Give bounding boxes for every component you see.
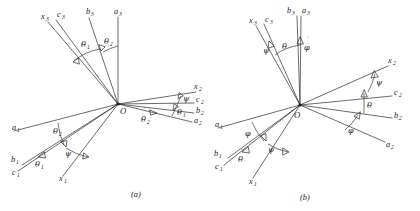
label-theta2-upper-a: θ xyxy=(104,36,109,46)
label-c2-a: c xyxy=(196,95,200,104)
label-c1-sub-b: 1 xyxy=(220,166,223,172)
label-x1-sub-b: 1 xyxy=(254,181,257,187)
label-c1-sub-a: 1 xyxy=(17,172,20,178)
axis-ray-c3-b xyxy=(264,24,300,105)
axis-ray-b1-b xyxy=(228,105,300,158)
label-c2-sub-a: 2 xyxy=(201,99,204,105)
label-a1-sub-a: 1 xyxy=(17,127,20,133)
caption-a: (a) xyxy=(131,190,141,199)
label-x2-sub-a: 2 xyxy=(199,86,202,92)
label-b2-sub-b: 2 xyxy=(399,115,402,121)
axis-ray-x3-b xyxy=(256,26,300,105)
label-x3-sub-b: 3 xyxy=(253,20,257,26)
label-x1-sub-a: 1 xyxy=(64,178,67,184)
label-a1-sub-b: 1 xyxy=(220,124,223,130)
label-theta2dot-right-a: θ xyxy=(141,114,146,124)
origin-dot-b xyxy=(298,103,301,106)
label-a2-sub-b: 2 xyxy=(391,144,394,150)
label-a3-sub-b: 3 xyxy=(306,10,310,16)
label-b2-b: b xyxy=(394,111,398,120)
axis-ray-c2-b xyxy=(300,96,392,105)
label-theta1-upper-a: θ xyxy=(81,39,86,49)
axis-ray-b2-b xyxy=(300,105,392,118)
label-x3-b: x xyxy=(248,16,253,25)
label-b1-a: b xyxy=(11,155,15,164)
axis-ray-a3-b xyxy=(300,16,301,105)
label-theta-upper-b: θ xyxy=(282,41,287,51)
label-b3-sub-b: 3 xyxy=(291,10,295,16)
label-psi-left-b: ψ xyxy=(268,144,275,154)
label-b1-b: b xyxy=(214,149,218,158)
label-x2-b: x xyxy=(387,56,392,65)
label-a2-sub-a: 2 xyxy=(199,120,202,126)
label-c2-b: c xyxy=(394,88,398,97)
arc-theta-upper-b xyxy=(275,45,300,55)
label-a3-sub-a: 3 xyxy=(118,11,122,17)
label-psi-right-a: ψ xyxy=(183,93,190,103)
euler-angle-diagram: x 3 c 3 b 3 a 3 x 2 c 2 b 2 a 2 a 1 b 1 … xyxy=(0,0,420,211)
axis-ray-c3-a xyxy=(56,20,118,104)
dot-theta1dot-left-a: ˙ xyxy=(37,153,41,161)
label-origin-b: O xyxy=(294,110,300,120)
label-psi-left-a: ψ xyxy=(65,148,72,158)
label-theta1-right-a: θ xyxy=(177,107,182,117)
dot-theta2dot-right-a: ˙ xyxy=(143,107,147,115)
axis-ray-b3-a xyxy=(89,18,118,104)
label-a1-b: a xyxy=(215,120,219,129)
dot-thetadot-left-b: ˙ xyxy=(240,148,244,156)
label-b3-b: b xyxy=(287,6,291,15)
label-c1-b: c xyxy=(215,162,219,171)
label-psi-right-b: ψ xyxy=(376,77,383,87)
label-x1-b: x xyxy=(248,177,253,186)
panel-b: x 3 c 3 b 3 a 3 x 2 c 2 b 2 a 2 a 1 b 1 … xyxy=(214,6,402,202)
label-origin-a: O xyxy=(120,106,126,116)
label-b3-a: b xyxy=(86,7,90,16)
label-a2-b: a xyxy=(386,140,390,149)
label-x3-sub-a: 3 xyxy=(45,16,49,22)
axis-ray-a2-b xyxy=(300,105,385,142)
label-c2-sub-b: 2 xyxy=(399,92,402,98)
label-theta1-upper-sub-a: 1 xyxy=(87,44,90,50)
arrowhead-theta2-left-a xyxy=(61,141,67,147)
label-theta2-upper-sub-a: 2 xyxy=(110,41,113,47)
axis-ray-c2-a xyxy=(118,103,194,104)
label-phi-left-b: φ xyxy=(245,128,251,138)
label-x2-sub-b: 2 xyxy=(393,60,396,66)
dot-phidot-upper-b: ˙ xyxy=(306,36,310,44)
label-a2-a: a xyxy=(194,116,198,125)
label-c3-a: c xyxy=(57,10,61,19)
dot-psidot-upper-b: ˙ xyxy=(265,39,269,47)
axis-ray-a1-a xyxy=(14,104,118,131)
label-theta2-left-a: θ xyxy=(53,126,58,136)
arrowhead-theta1-upper-a xyxy=(73,58,79,64)
label-b1-sub-b: 1 xyxy=(219,153,222,159)
label-theta2dot-right-sub-a: 2 xyxy=(147,119,150,125)
axis-ray-c1-b xyxy=(224,105,300,165)
caption-b: (b) xyxy=(300,193,310,202)
label-c3-sub-a: 3 xyxy=(61,14,65,20)
panel-a: x 3 c 3 b 3 a 3 x 2 c 2 b 2 a 2 a 1 b 1 … xyxy=(11,7,204,199)
axis-ray-x1-a xyxy=(63,104,118,176)
axis-ray-c1-a xyxy=(18,104,118,171)
label-c3-sub-b: 3 xyxy=(269,19,273,25)
label-a3-b: a xyxy=(302,6,306,15)
axis-ray-b3-b xyxy=(297,16,300,105)
label-theta1-right-sub-a: 1 xyxy=(183,112,186,118)
label-b3-sub-a: 3 xyxy=(90,11,94,17)
label-b2-sub-a: 2 xyxy=(201,110,204,116)
label-b1-sub-a: 1 xyxy=(16,159,19,165)
label-b2-a: b xyxy=(196,106,200,115)
label-theta1dot-left-sub-a: 1 xyxy=(41,164,44,170)
label-phi-right-b: φ xyxy=(348,125,354,135)
axis-ray-x3-a xyxy=(48,22,118,104)
figure-root: x 3 c 3 b 3 a 3 x 2 c 2 b 2 a 2 a 1 b 1 … xyxy=(0,0,420,211)
label-x2-a: x xyxy=(193,82,198,91)
label-x1-a: x xyxy=(58,174,63,183)
label-theta2-left-sub-a: 2 xyxy=(59,131,62,137)
label-x3-a: x xyxy=(40,12,45,21)
label-c1-a: c xyxy=(12,168,16,177)
label-theta-right-b: θ xyxy=(367,100,372,110)
label-a1-a: a xyxy=(12,123,16,132)
label-a3-a: a xyxy=(114,7,118,16)
label-c3-b: c xyxy=(265,15,269,24)
